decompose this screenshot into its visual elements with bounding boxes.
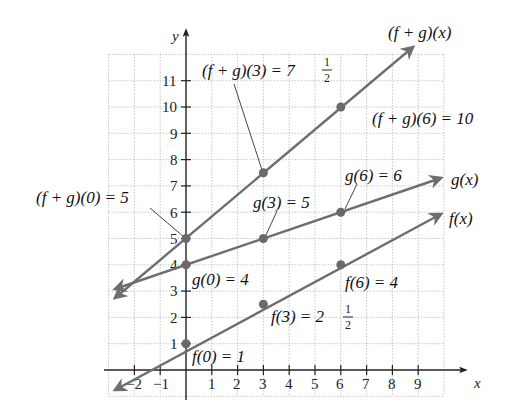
- svg-text:8: 8: [388, 376, 396, 392]
- svg-text:2: 2: [170, 310, 178, 326]
- svg-text:7: 7: [362, 376, 370, 392]
- f6-label: f(6) = 4: [345, 273, 399, 292]
- svg-text:4: 4: [285, 376, 293, 392]
- svg-text:6: 6: [336, 376, 344, 392]
- g0-label: g(0) = 4: [192, 270, 249, 289]
- leader-g6: [345, 184, 357, 209]
- svg-text:1: 1: [208, 376, 216, 392]
- g6-label: g(6) = 6: [345, 166, 402, 185]
- f3-label: f(3) = 2: [271, 307, 325, 326]
- fg0-label: (f + g)(0) = 5: [36, 188, 129, 207]
- fg-curve-label: (f + g)(x): [388, 23, 452, 42]
- leader-fg3: [234, 84, 262, 170]
- svg-text:2: 2: [345, 318, 351, 332]
- svg-text:5: 5: [170, 231, 178, 247]
- y-axis-label: y: [170, 28, 179, 44]
- f0-label: f(0) = 1: [192, 347, 245, 366]
- svg-text:11: 11: [162, 73, 176, 89]
- svg-text:8: 8: [170, 152, 178, 168]
- svg-text:9: 9: [170, 126, 178, 142]
- svg-text:1: 1: [345, 302, 351, 316]
- svg-text:2: 2: [324, 71, 330, 85]
- svg-text:3: 3: [170, 283, 178, 299]
- svg-text:1: 1: [170, 336, 178, 352]
- x-ticks: −2 −1 1 2 3 4 5 6 7 8 9: [126, 365, 422, 392]
- g-curve-label: g(x): [451, 170, 479, 189]
- fg3-label: (f + g)(3) = 7: [202, 61, 296, 80]
- svg-text:9: 9: [414, 376, 422, 392]
- f-curve-label: f(x): [449, 209, 473, 228]
- svg-text:3: 3: [259, 376, 267, 392]
- fg6-label: (f + g)(6) = 10: [372, 109, 474, 128]
- svg-text:−1: −1: [153, 376, 169, 392]
- x-axis-label: x: [473, 375, 481, 391]
- svg-text:6: 6: [170, 205, 178, 221]
- g3-label: g(3) = 5: [253, 193, 310, 212]
- svg-text:1: 1: [324, 55, 330, 69]
- svg-text:10: 10: [162, 99, 177, 115]
- svg-text:5: 5: [311, 376, 319, 392]
- leader-g3: [266, 211, 277, 235]
- grid: [109, 54, 444, 396]
- svg-text:2: 2: [233, 376, 241, 392]
- svg-text:7: 7: [170, 178, 178, 194]
- chart: x y −2 −1 1 2 3 4 5 6 7 8 9: [0, 0, 515, 417]
